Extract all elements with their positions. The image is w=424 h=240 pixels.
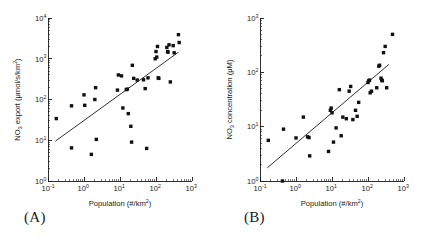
- panel-a: 10-1100101102103100101102103104Populatio…: [0, 0, 212, 240]
- svg-text:103: 103: [35, 53, 46, 63]
- panel-a-label: (A): [24, 209, 46, 226]
- svg-text:102: 102: [362, 183, 373, 193]
- svg-text:103: 103: [247, 13, 258, 23]
- svg-text:100: 100: [78, 183, 89, 193]
- svg-text:103: 103: [398, 183, 409, 193]
- panel-b-label: (B): [244, 209, 265, 226]
- svg-text:101: 101: [114, 183, 125, 193]
- panel-b: 10-1100101102103100101102103Population (…: [212, 0, 424, 240]
- svg-text:101: 101: [326, 183, 337, 193]
- svg-text:102: 102: [247, 67, 258, 77]
- svg-text:Population (#/km2): Population (#/km2): [301, 198, 364, 208]
- svg-text:10-1: 10-1: [254, 183, 267, 193]
- svg-text:101: 101: [247, 121, 258, 131]
- svg-text:102: 102: [150, 183, 161, 193]
- svg-text:103: 103: [186, 183, 197, 193]
- svg-text:102: 102: [35, 94, 46, 104]
- svg-text:NO3 export (μmol/s/km2): NO3 export (μmol/s/km2): [12, 58, 23, 141]
- svg-text:104: 104: [35, 13, 46, 23]
- svg-text:10-1: 10-1: [42, 183, 55, 193]
- svg-text:101: 101: [35, 135, 46, 145]
- panel-b-plot: 10-1100101102103100101102103Population (…: [212, 0, 424, 240]
- figure-container: 10-1100101102103100101102103104Populatio…: [0, 0, 424, 240]
- svg-text:100: 100: [290, 183, 301, 193]
- panel-a-plot: 10-1100101102103100101102103104Populatio…: [0, 0, 212, 240]
- svg-text:NO3 concentration (μM): NO3 concentration (μM): [225, 59, 235, 139]
- svg-text:Population (#/km2): Population (#/km2): [89, 198, 152, 208]
